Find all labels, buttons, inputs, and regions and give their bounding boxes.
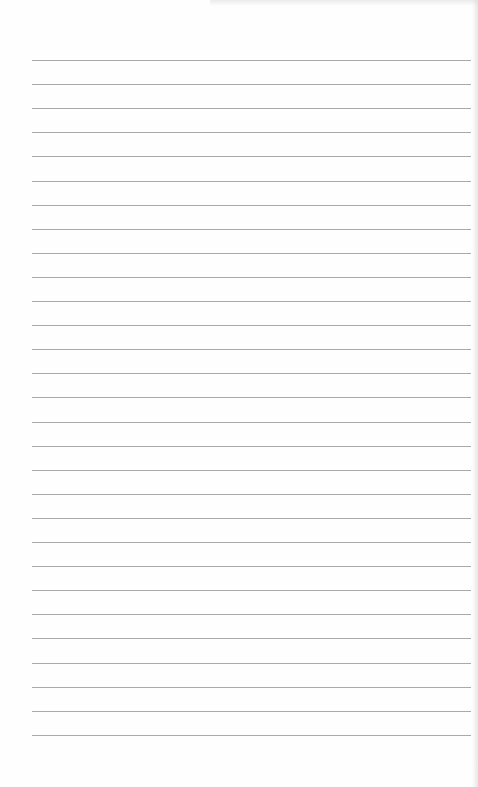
lined-paper-page <box>0 0 478 787</box>
ruled-line <box>32 301 471 302</box>
ruled-line <box>32 663 471 664</box>
ruled-line <box>32 470 471 471</box>
ruled-line <box>32 229 471 230</box>
ruled-line <box>32 566 471 567</box>
ruled-line <box>32 518 471 519</box>
ruled-line <box>32 277 471 278</box>
ruled-line <box>32 735 471 736</box>
ruled-line <box>32 638 471 639</box>
scan-shadow-right <box>472 0 478 787</box>
ruled-line <box>32 132 471 133</box>
scan-shadow-top <box>210 0 478 6</box>
ruled-line <box>32 373 471 374</box>
ruled-line <box>32 687 471 688</box>
ruled-line <box>32 494 471 495</box>
ruled-line <box>32 60 471 61</box>
ruled-line <box>32 253 471 254</box>
ruled-line <box>32 349 471 350</box>
ruled-line <box>32 542 471 543</box>
ruled-line <box>32 84 471 85</box>
ruled-line <box>32 325 471 326</box>
ruled-line <box>32 590 471 591</box>
ruled-line <box>32 446 471 447</box>
ruled-line <box>32 397 471 398</box>
ruled-line <box>32 156 471 157</box>
ruled-line <box>32 614 471 615</box>
ruled-line <box>32 422 471 423</box>
ruled-line <box>32 205 471 206</box>
ruled-line <box>32 711 471 712</box>
ruled-line <box>32 181 471 182</box>
ruled-line <box>32 108 471 109</box>
